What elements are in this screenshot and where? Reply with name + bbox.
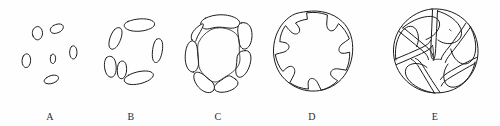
panel-b: B: [88, 0, 174, 126]
figure-root: A B: [0, 0, 500, 126]
panel-c-label: C: [172, 111, 264, 122]
panel-c: C: [172, 0, 264, 126]
ellipse-ring-a: [22, 24, 77, 84]
arc-ring-c: [185, 15, 252, 93]
panel-a: A: [10, 0, 90, 126]
panel-e: E: [380, 0, 490, 126]
panel-b-drawing: [88, 0, 174, 100]
panel-e-drawing: [380, 0, 490, 100]
panel-a-drawing: [10, 0, 90, 100]
panel-e-label: E: [380, 111, 490, 122]
panel-d-label: D: [262, 111, 362, 122]
panel-d-drawing: [262, 0, 362, 100]
panel-b-label: B: [88, 111, 174, 122]
panel-c-drawing: [172, 0, 264, 100]
spiral-pinwheel-e: [393, 9, 478, 93]
rod-ring-b: [104, 19, 162, 85]
panel-a-label: A: [10, 111, 90, 122]
notched-ring-d: [273, 11, 352, 91]
panel-d: D: [262, 0, 362, 126]
